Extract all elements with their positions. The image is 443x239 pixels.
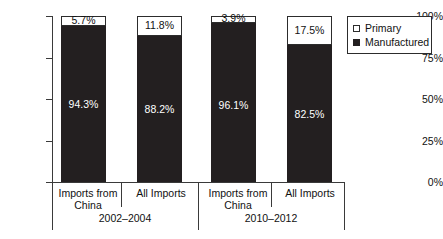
legend-label-primary: Primary xyxy=(365,22,401,34)
category-separator-2 xyxy=(271,183,272,207)
legend-swatch-primary-icon xyxy=(353,25,360,32)
x-axis-group-1: 2002–2004 xyxy=(52,212,198,224)
y-axis-tick-25 xyxy=(46,141,52,142)
bar-group-3: 3.9% 96.1% xyxy=(211,16,256,182)
legend-swatch-manufactured-icon xyxy=(353,39,360,46)
x-axis-category-1: Imports from China xyxy=(56,187,120,211)
bar-label-primary: 5.7% xyxy=(61,15,106,26)
bar-label-primary: 3.9% xyxy=(211,13,256,24)
y-axis-label-75: 75% xyxy=(399,53,443,63)
x-axis-category-2: All Imports xyxy=(126,187,196,199)
bar-label-primary: 17.5% xyxy=(287,25,332,36)
y-axis-tick-75 xyxy=(46,58,52,59)
bar-group-2: 11.8% 88.2% xyxy=(137,16,182,182)
bar-group-4: 17.5% 82.5% xyxy=(287,16,332,182)
x-axis-group-2: 2010–2012 xyxy=(198,212,344,224)
y-axis-line xyxy=(52,16,53,183)
bar-label-manufactured: 94.3% xyxy=(61,99,106,110)
y-axis-label-0: 0% xyxy=(399,177,443,187)
category-separator-1 xyxy=(121,183,122,207)
legend-item-primary: Primary xyxy=(353,21,426,35)
bar-label-manufactured: 88.2% xyxy=(137,104,182,115)
y-axis-label-50: 50% xyxy=(399,94,443,104)
x-axis-right-cap xyxy=(344,182,345,230)
x-axis-category-3: Imports from China xyxy=(206,187,270,211)
y-axis-tick-50 xyxy=(46,99,52,100)
y-axis-label-25: 25% xyxy=(399,136,443,146)
bar-label-manufactured: 96.1% xyxy=(211,100,256,111)
bar-group-1: 5.7% 94.3% xyxy=(61,16,106,182)
legend-item-manufactured: Manufactured xyxy=(353,35,426,49)
legend-label-manufactured: Manufactured xyxy=(365,36,429,48)
stacked-bar-chart: 100% 75% 50% 25% 0% 5.7% 94.3% 11.8% 88.… xyxy=(0,0,443,239)
x-axis-category-4: All Imports xyxy=(276,187,344,199)
bar-label-primary: 11.8% xyxy=(137,20,182,31)
y-axis-tick-100 xyxy=(46,16,52,17)
chart-legend: Primary Manufactured xyxy=(347,16,432,54)
bar-label-manufactured: 82.5% xyxy=(287,109,332,120)
